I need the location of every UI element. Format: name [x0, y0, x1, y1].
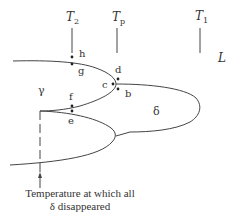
point-e-label: e — [68, 115, 74, 126]
gamma-phase-label: γ — [38, 84, 45, 97]
delta-phase-label: δ — [153, 105, 160, 118]
point-h-label: h — [79, 48, 86, 59]
point-d — [117, 78, 120, 81]
point-g — [71, 63, 74, 66]
upper-gamma-boundary — [13, 61, 116, 111]
point-h — [71, 56, 74, 59]
phase-diagram: T2 Tp T1 L γ δ h g d c b f e — [0, 0, 230, 214]
caption-line-2: δ disappeared — [0, 200, 160, 213]
liquid-phase-label: L — [217, 51, 226, 65]
point-f — [71, 105, 74, 108]
t2-label: T2 — [66, 10, 79, 26]
point-d-label: d — [115, 64, 122, 75]
point-e — [71, 110, 74, 113]
point-c — [112, 83, 115, 86]
point-c-label: c — [102, 79, 108, 90]
delta-lower-connector — [116, 132, 130, 136]
caption-line-1: Temperature at which all — [0, 187, 160, 200]
tp-label: Tp — [112, 10, 125, 26]
caption: Temperature at which all δ disappeared — [0, 187, 160, 213]
point-b-label: b — [125, 88, 131, 99]
t1-label: T1 — [195, 9, 208, 25]
arrow-head-icon — [38, 172, 42, 178]
point-f-label: f — [69, 91, 74, 102]
point-g-label: g — [78, 65, 85, 76]
lower-gamma-boundary — [10, 111, 115, 165]
point-b — [117, 88, 120, 91]
